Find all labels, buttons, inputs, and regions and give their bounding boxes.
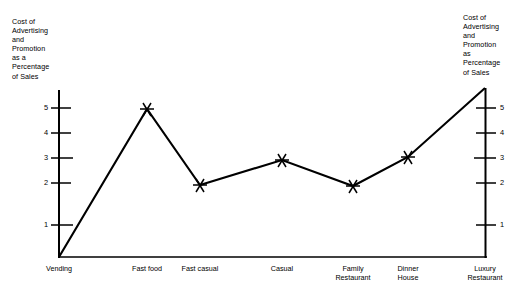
x-axis-label-dinner-house: Dinner House [378,264,438,282]
x-axis-label-fast-casual: Fast casual [170,264,230,273]
x-axis-label-casual: Casual [252,264,312,273]
data-line-series [59,88,485,257]
y-axis-right-tick-1: 1 [500,221,512,229]
y-axis-right-tick-3: 3 [500,154,512,162]
x-axis-label-vending: Vending [29,264,89,273]
data-point-marker-family-restaurant [346,180,360,193]
y-axis-right-tick-4: 4 [500,129,512,137]
data-point-marker-fast-casual [193,179,207,192]
y-axis-left-tick-3: 3 [36,154,48,162]
data-point-marker-fast-food [140,103,154,116]
y-axis-left-tick-1: 1 [36,221,48,229]
y-axis-left-tick-5: 5 [36,104,48,112]
plot-area [0,0,525,285]
x-axis-label-luxury-restaurant: Luxury Restaurant [455,264,515,282]
data-point-markers [140,103,415,193]
data-point-marker-casual [275,154,289,167]
y-axis-right-tick-5: 5 [500,104,512,112]
chart-container: Cost of Advertising and Promotion as a P… [0,0,525,285]
x-axis-label-fast-food: Fast food [117,264,177,273]
y-axis-left-tick-2: 2 [36,179,48,187]
y-axis-right-tick-2: 2 [500,179,512,187]
y-axis-left-ticks [51,108,73,225]
x-axis-label-family-restaurant: Family Restaurant [323,264,383,282]
y-axis-left-tick-4: 4 [36,129,48,137]
